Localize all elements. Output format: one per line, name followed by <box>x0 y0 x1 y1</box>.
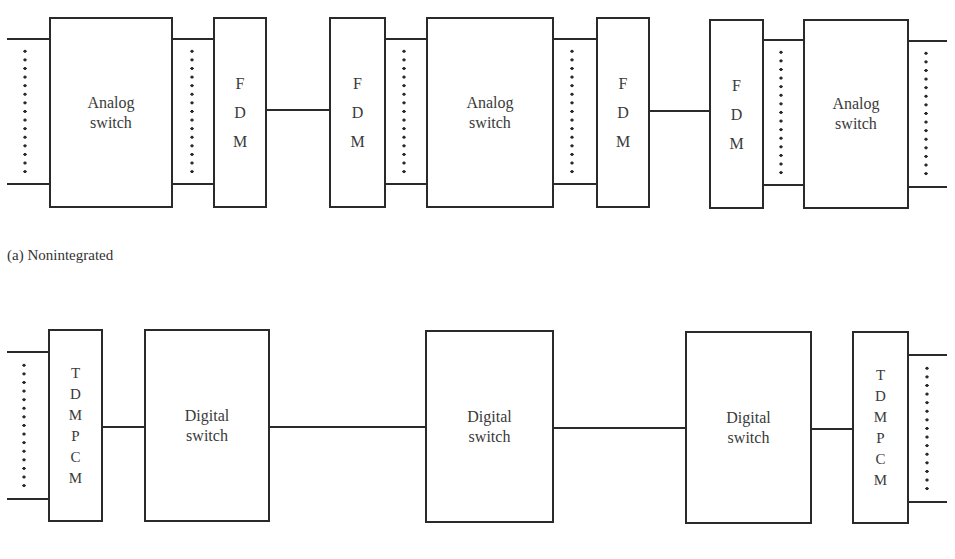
fdm-1-label: F D M <box>233 69 247 156</box>
analog-switch-2-box: Analog switch <box>426 17 554 208</box>
digital-switch-2-box: Digital switch <box>425 330 554 523</box>
digital-switch-1-label: Digital switch <box>185 406 229 446</box>
connection-line <box>385 183 427 185</box>
fdm-4-box: F D M <box>709 19 764 209</box>
connection-line <box>172 38 214 40</box>
fdm-4-label: F D M <box>729 71 743 158</box>
connection-line <box>811 428 853 430</box>
analog-switch-1-label: Analog switch <box>87 93 134 133</box>
tdm-pcm-2-label: T D M P C M <box>874 365 887 491</box>
connection-line <box>908 186 947 188</box>
connection-line <box>172 183 214 185</box>
connection-line <box>553 38 597 40</box>
fdm-3-label: F D M <box>616 69 630 156</box>
connection-line <box>7 38 50 40</box>
connection-line <box>763 184 804 186</box>
channel-ellipsis-dots <box>23 47 27 175</box>
connection-line <box>649 110 710 112</box>
fdm-1-box: F D M <box>213 17 267 208</box>
channel-ellipsis-dots <box>190 47 194 175</box>
channel-ellipsis-dots <box>570 47 574 175</box>
connection-line <box>385 38 427 40</box>
digital-switch-3-box: Digital switch <box>685 331 812 524</box>
digital-switch-2-label: Digital switch <box>467 407 511 447</box>
connection-line <box>908 501 947 503</box>
caption-nonintegrated: (a) Nonintegrated <box>7 247 113 264</box>
fdm-2-label: F D M <box>350 69 364 156</box>
analog-switch-1-box: Analog switch <box>49 17 173 208</box>
tdm-pcm-2-box: T D M P C M <box>852 331 909 524</box>
analog-switch-3-label: Analog switch <box>832 94 879 134</box>
tdm-pcm-1-label: T D M P C M <box>69 363 82 489</box>
fdm-3-box: F D M <box>596 17 650 208</box>
connection-line <box>553 427 686 429</box>
connection-line <box>908 354 947 356</box>
analog-switch-2-label: Analog switch <box>466 93 513 133</box>
connection-line <box>102 426 145 428</box>
channel-ellipsis-dots <box>925 364 929 494</box>
fdm-2-box: F D M <box>329 17 386 208</box>
connection-line <box>266 109 330 111</box>
channel-ellipsis-dots <box>402 47 406 175</box>
connection-line <box>763 39 804 41</box>
connection-line <box>7 183 50 185</box>
connection-line <box>908 40 947 42</box>
tdm-pcm-1-box: T D M P C M <box>48 329 103 522</box>
channel-ellipsis-dots <box>22 361 26 491</box>
connection-line <box>7 498 49 500</box>
channel-ellipsis-dots <box>779 48 783 176</box>
digital-switch-1-box: Digital switch <box>144 329 270 522</box>
connection-line <box>269 426 426 428</box>
connection-line <box>7 351 49 353</box>
channel-ellipsis-dots <box>924 49 928 177</box>
connection-line <box>553 183 597 185</box>
digital-switch-3-label: Digital switch <box>726 408 770 448</box>
analog-switch-3-box: Analog switch <box>803 19 909 209</box>
